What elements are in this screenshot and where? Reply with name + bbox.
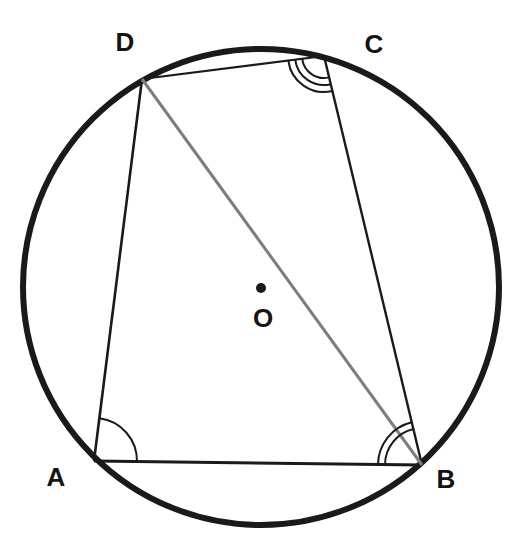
vertex-label-d: D [116, 27, 135, 58]
vertex-label-b: B [437, 464, 456, 495]
edge-ab [94, 461, 422, 465]
edge-da [94, 79, 142, 461]
center-label-o: O [253, 303, 273, 334]
geometry-figure: A B C D O [0, 0, 524, 559]
vertex-label-a: A [47, 462, 66, 493]
diagonal-db [142, 79, 422, 465]
edge-bc [324, 56, 422, 465]
angle-mark-a-arc1 [99, 418, 137, 461]
center-dot [256, 283, 266, 293]
vertex-label-c: C [365, 29, 384, 60]
